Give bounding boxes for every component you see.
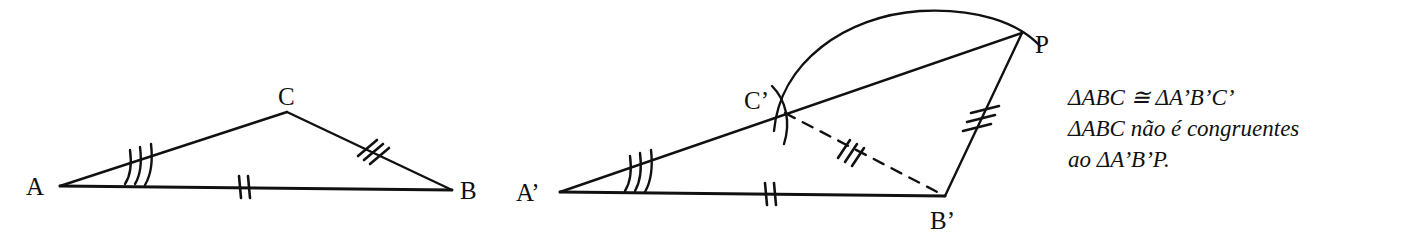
caption-text: ΔABC ≅ ΔA’B’C’ ΔABC não é congruentes ao… bbox=[1068, 82, 1398, 175]
tick-marks-CB bbox=[358, 140, 389, 164]
vertex-label-C: C bbox=[278, 84, 295, 109]
vertex-label-P: P bbox=[1035, 32, 1049, 57]
caption-line-1: ΔABC ≅ ΔA’B’C’ bbox=[1068, 82, 1398, 113]
caption-line-3: ao ΔA’B’P. bbox=[1068, 144, 1398, 175]
vertex-label-A-prime: A’ bbox=[516, 180, 540, 205]
side-AB bbox=[60, 186, 452, 190]
angle-arcs-A-prime bbox=[625, 150, 652, 192]
side-CB bbox=[287, 112, 452, 190]
side-C-prime-B-prime bbox=[785, 113, 945, 196]
vertex-label-B-prime: B’ bbox=[930, 208, 955, 233]
caption-line-2: ΔABC não é congruentes bbox=[1068, 113, 1398, 144]
vertex-label-C-prime: C’ bbox=[744, 88, 769, 113]
side-B-prime-P bbox=[945, 33, 1022, 196]
side-A-prime-B-prime bbox=[560, 192, 945, 196]
side-AC bbox=[60, 112, 287, 186]
construction-arc-large bbox=[774, 11, 1040, 131]
vertex-label-B: B bbox=[460, 178, 477, 203]
vertex-label-A: A bbox=[26, 174, 44, 199]
side-A-prime-P bbox=[560, 33, 1022, 192]
figure-A-prime-group bbox=[560, 11, 1040, 205]
diagram-canvas: A B C A’ B’ C’ P ΔABC ≅ ΔA’B’C’ ΔABC não… bbox=[0, 0, 1401, 243]
triangle-ABC-group bbox=[60, 112, 452, 198]
tick-marks-B-prime-P bbox=[963, 106, 999, 131]
tick-marks-C-prime-B-prime bbox=[838, 140, 864, 166]
